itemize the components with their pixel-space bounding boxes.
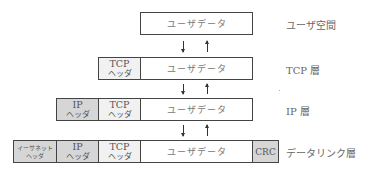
user-data-cell: ユーザデータ <box>141 58 252 79</box>
user-space-label: ユーザ空間 <box>286 17 336 32</box>
stray-dot <box>279 90 280 91</box>
tcp-header-cell: TCP ヘッダ <box>99 141 141 162</box>
ip-header-cell: IP ヘッダ <box>57 99 99 120</box>
user-data-cell: ユーザデータ <box>141 141 253 162</box>
crc-cell: CRC <box>253 141 278 162</box>
up-arrow-icon <box>207 125 208 136</box>
up-arrow-icon <box>207 41 208 52</box>
tcp-layer-label: TCP 層 <box>286 62 320 77</box>
datalink-layer-packet: イーサネット ヘッダ IP ヘッダ TCP ヘッダ ユーザデータ CRC <box>13 140 279 163</box>
ip-header-cell: IP ヘッダ <box>57 141 99 162</box>
down-arrow-icon <box>183 125 184 136</box>
ip-layer-packet: IP ヘッダ TCP ヘッダ ユーザデータ <box>56 98 253 121</box>
user-data-cell: ユーザデータ <box>141 99 252 120</box>
tcp-header-cell: TCP ヘッダ <box>99 99 141 120</box>
up-arrow-icon <box>207 84 208 94</box>
tcp-layer-packet: TCP ヘッダ ユーザデータ <box>98 57 253 80</box>
ip-layer-label: IP 層 <box>286 103 310 118</box>
down-arrow-icon <box>183 41 184 52</box>
user-space-packet: ユーザデータ <box>140 12 253 35</box>
ethernet-header-cell: イーサネット ヘッダ <box>14 141 57 162</box>
down-arrow-icon <box>183 84 184 94</box>
datalink-layer-label: データリンク層 <box>286 145 356 160</box>
tcp-header-cell: TCP ヘッダ <box>99 58 141 79</box>
user-data-cell: ユーザデータ <box>141 13 252 34</box>
